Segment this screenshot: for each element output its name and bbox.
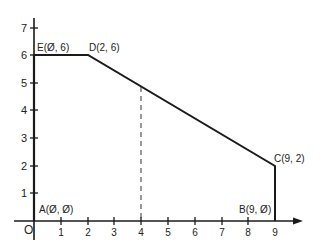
y-tick-label: 3 [21, 132, 27, 144]
point-label-d: D(2, 6) [89, 42, 120, 53]
origin-label: O [24, 223, 33, 237]
x-tick-label: 7 [219, 227, 225, 238]
point-label-b: B(9, Ø) [239, 204, 271, 215]
polygon-boundary [34, 55, 275, 221]
x-tick-label: 8 [245, 227, 251, 238]
point-label-a: A(Ø, Ø) [39, 204, 73, 215]
point-label-c: C(9, 2) [274, 153, 305, 164]
x-tick-label: 1 [58, 227, 64, 238]
x-tick-label: 2 [85, 227, 91, 238]
y-tick-label: 6 [21, 49, 27, 61]
y-tick-label: 2 [21, 160, 27, 172]
y-tick-label: 7 [21, 22, 27, 34]
x-axis-arrow-icon [293, 218, 303, 225]
chart: 1 2 3 4 5 6 7 8 9 1 2 3 4 5 6 7 O E(Ø, 6… [0, 0, 323, 249]
y-tick-label: 5 [21, 77, 27, 89]
x-tick-label: 9 [272, 227, 278, 238]
point-label-e: E(Ø, 6) [37, 42, 69, 53]
x-tick-label: 6 [192, 227, 198, 238]
x-tick-label: 5 [165, 227, 171, 238]
x-tick-label: 4 [138, 227, 144, 238]
y-tick-label: 4 [21, 104, 27, 116]
x-tick-label: 3 [111, 227, 117, 238]
y-tick-label: 1 [21, 187, 27, 199]
